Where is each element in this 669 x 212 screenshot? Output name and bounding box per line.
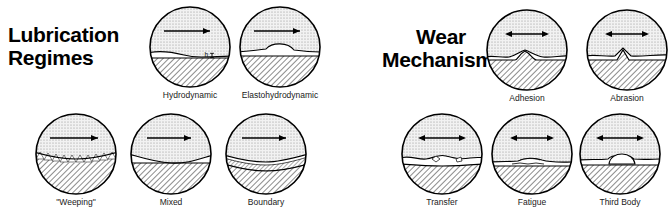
- film-thickness-label-h: h: [204, 51, 208, 58]
- caption-third-body: Third Body: [578, 197, 662, 207]
- lubrication-regimes-title: Lubrication Regimes: [8, 24, 119, 69]
- caption-weeping: "Weeping": [34, 197, 118, 207]
- caption-fatigue: Fatigue: [490, 197, 574, 207]
- diagram-third-body: Third Body: [578, 112, 662, 207]
- diagram-weeping: "Weeping": [34, 112, 118, 207]
- diagram-mixed: Mixed: [129, 112, 213, 207]
- caption-elastohydrodynamic: Elastohydrodynamic: [238, 90, 322, 100]
- diagram-hydrodynamic: h Hydrodynamic: [148, 5, 232, 100]
- caption-mixed: Mixed: [129, 197, 213, 207]
- diagram-fatigue: Fatigue: [490, 112, 574, 207]
- caption-hydrodynamic: Hydrodynamic: [148, 90, 232, 100]
- wear-mechanisms-title: Wear Mechanisms: [382, 26, 500, 71]
- diagram-boundary: Boundary: [224, 112, 308, 207]
- caption-abrasion: Abrasion: [585, 93, 669, 103]
- caption-transfer: Transfer: [400, 197, 484, 207]
- diagram-abrasion: Abrasion: [585, 8, 669, 103]
- diagram-adhesion: Adhesion: [485, 8, 569, 103]
- caption-adhesion: Adhesion: [485, 93, 569, 103]
- diagram-transfer: Transfer: [400, 112, 484, 207]
- diagram-elastohydrodynamic: Elastohydrodynamic: [238, 5, 322, 100]
- caption-boundary: Boundary: [224, 197, 308, 207]
